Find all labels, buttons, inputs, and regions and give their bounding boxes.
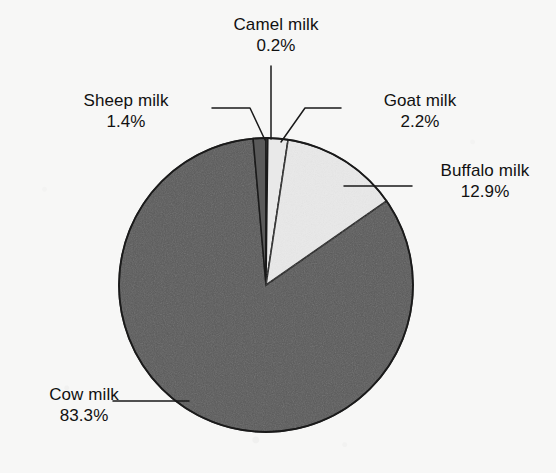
leader-line-goat <box>281 108 341 142</box>
slice-label-buffalo: Buffalo milk 12.9% <box>415 160 555 202</box>
slice-label-goat-percent: 2.2% <box>345 111 495 132</box>
slice-label-camel-percent: 0.2% <box>196 35 356 56</box>
slice-label-goat-name: Goat milk <box>384 91 457 110</box>
slice-label-sheep-percent: 1.4% <box>36 111 216 132</box>
slice-label-cow: Cow milk 83.3% <box>14 384 154 426</box>
slice-label-sheep-name: Sheep milk <box>83 91 168 110</box>
slice-label-sheep: Sheep milk 1.4% <box>36 90 216 132</box>
slice-label-buffalo-percent: 12.9% <box>415 181 555 202</box>
slice-label-camel: Camel milk 0.2% <box>196 14 356 56</box>
leader-line-sheep <box>212 108 265 140</box>
pie-slices <box>119 138 413 432</box>
slice-label-buffalo-name: Buffalo milk <box>441 161 530 180</box>
slice-label-cow-percent: 83.3% <box>14 405 154 426</box>
slice-label-goat: Goat milk 2.2% <box>345 90 495 132</box>
pie-chart-figure: Camel milk 0.2% Sheep milk 1.4% Goat mil… <box>0 0 556 473</box>
slice-label-camel-name: Camel milk <box>233 15 318 34</box>
slice-label-cow-name: Cow milk <box>49 385 119 404</box>
